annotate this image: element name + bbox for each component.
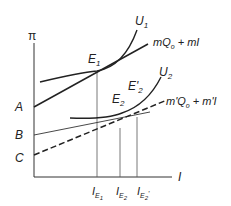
- x-axis-label: I: [178, 170, 182, 184]
- line-dashed: [34, 100, 167, 155]
- point-e2p-label: E'2: [128, 79, 143, 95]
- intercept-b: B: [15, 128, 23, 142]
- line-mqo-mi-label: mQo + mI: [153, 36, 199, 50]
- intercept-c: C: [15, 151, 24, 165]
- x-tick-ie2: IE2: [116, 185, 128, 201]
- intercept-a: A: [14, 100, 23, 114]
- curve-u1-label: U1: [135, 14, 148, 30]
- curve-u2-label: U2: [159, 65, 173, 81]
- economics-diagram: π I A B C U1 U2 mQo + mI m'Qo + m'I E1 E…: [0, 0, 231, 206]
- diagram-svg: π I A B C U1 U2 mQo + mI m'Qo + m'I E1 E…: [0, 0, 231, 206]
- point-e1-label: E1: [88, 52, 100, 68]
- line-m-prime-label: m'Qo + m'I: [166, 95, 217, 109]
- line-m-prime: [34, 112, 150, 135]
- point-e2-label: E2: [112, 92, 125, 108]
- y-axis-label: π: [28, 29, 36, 43]
- x-tick-ie2p: IE2': [137, 185, 150, 201]
- x-tick-ie1: IE1: [92, 185, 103, 201]
